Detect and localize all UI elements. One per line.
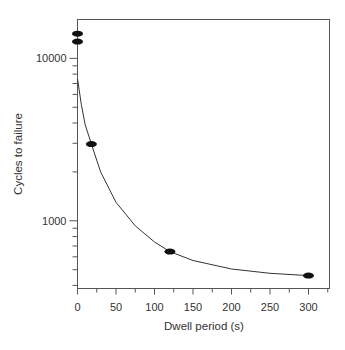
data-point [86, 141, 97, 147]
x-tick-label: 150 [184, 301, 202, 313]
y-axis-label: Cycles to failure [12, 113, 24, 195]
data-point [303, 273, 314, 279]
x-tick-label: 300 [299, 301, 317, 313]
y-tick-label: 1000 [42, 215, 66, 227]
y-tick-label: 10000 [36, 52, 67, 64]
data-point [72, 31, 83, 37]
data-point [72, 39, 83, 45]
x-tick-label: 250 [261, 301, 279, 313]
data-point [164, 249, 175, 255]
data-points [72, 31, 314, 279]
chart: 050100150200250300 100010000 Dwell perio… [0, 0, 345, 350]
x-tick-label: 100 [145, 301, 163, 313]
x-axis-ticks: 050100150200250300 [74, 289, 327, 314]
x-axis-label: Dwell period (s) [164, 320, 244, 332]
y-axis-ticks: 100010000 [36, 52, 78, 285]
fitted-curve [78, 79, 309, 276]
x-tick-label: 0 [74, 301, 80, 313]
x-tick-label: 50 [110, 301, 122, 313]
x-tick-label: 200 [222, 301, 240, 313]
plot-frame [78, 20, 330, 289]
